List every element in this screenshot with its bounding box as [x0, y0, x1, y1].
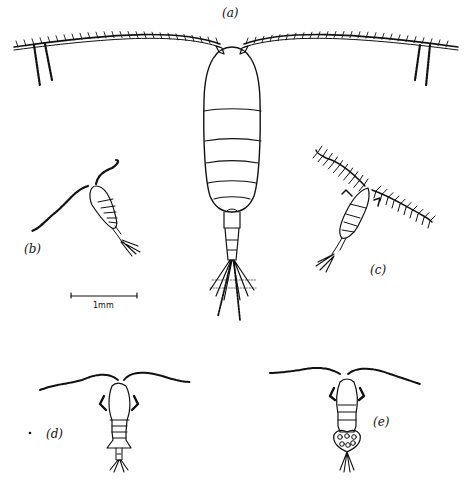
copepod-figure — [0, 0, 469, 480]
stray-mark — [29, 432, 32, 435]
specimen-d-right-antenna — [124, 373, 190, 382]
specimen-d-caudal-setae — [110, 460, 128, 472]
specimen-b-right-antenna — [96, 160, 118, 184]
specimen-e-right-antenna — [348, 369, 420, 384]
specimen-b-left-antenna — [32, 186, 88, 231]
specimen-a-body — [204, 47, 261, 212]
specimen-b-caudal-setae — [121, 240, 140, 256]
panel-label-e: (e) — [373, 415, 389, 429]
specimen-c-right-antenna — [372, 190, 432, 222]
scale-bar — [71, 293, 137, 298]
specimen-b — [32, 160, 140, 256]
specimen-e-caudal-setae — [340, 452, 354, 472]
specimen-c-plumose-setae — [313, 146, 435, 228]
specimen-e-left-antenna — [270, 368, 340, 374]
panel-label-c: (c) — [370, 263, 386, 277]
specimen-e — [270, 368, 420, 472]
specimen-d — [40, 373, 190, 472]
specimen-a-left-hanging-setae — [34, 44, 52, 86]
scale-bar-label: 1mm — [93, 301, 114, 310]
specimen-d-left-antenna — [40, 375, 118, 390]
panel-label-b: (b) — [24, 242, 41, 256]
panel-label-a: (a) — [222, 6, 239, 20]
panel-label-d: (d) — [46, 427, 63, 441]
specimen-a-segment-line — [204, 109, 261, 111]
specimen-a-right-hanging-setae — [415, 45, 430, 86]
specimen-a — [14, 31, 458, 320]
specimen-c — [313, 146, 435, 272]
specimen-a-caudal-setae — [210, 260, 256, 320]
specimen-a-urosome — [224, 212, 240, 260]
specimen-c-caudal-setae — [316, 254, 334, 272]
